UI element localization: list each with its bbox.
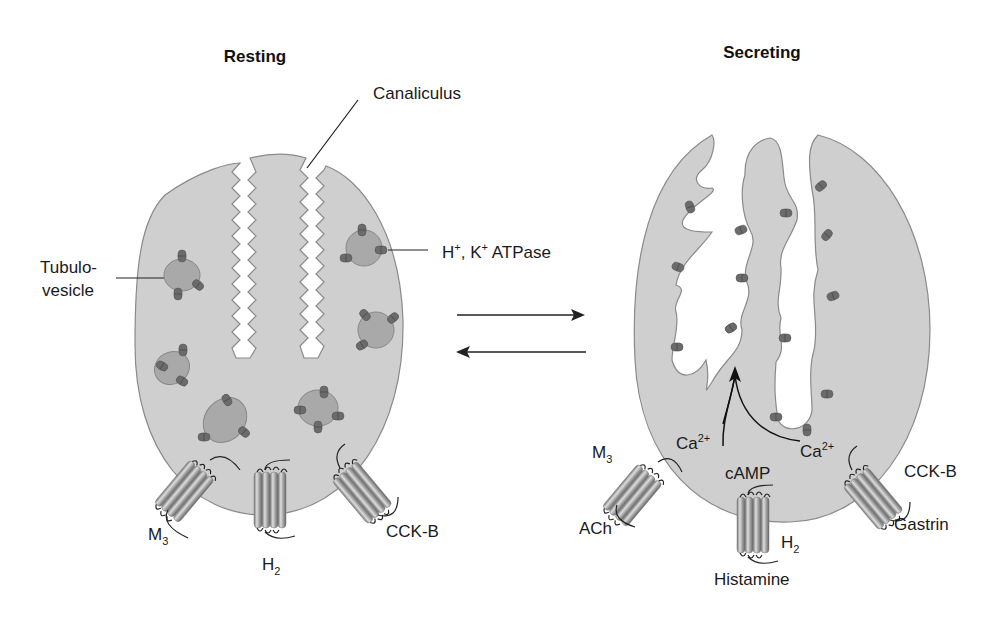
reverse-arrow bbox=[456, 346, 586, 358]
atpase-label: H+, K+ ATPase bbox=[442, 241, 551, 262]
cckb-label: CCK-B bbox=[386, 522, 439, 541]
parietal-cell-diagram: Resting Canalicu bbox=[0, 0, 1000, 618]
h2-receptor bbox=[737, 492, 770, 558]
h2-label: H2 bbox=[781, 533, 799, 555]
canaliculus-label: Canaliculus bbox=[373, 84, 461, 103]
resting-title: Resting bbox=[224, 47, 286, 66]
ach-label: ACh bbox=[579, 519, 612, 538]
histamine-label: Histamine bbox=[714, 570, 790, 589]
tubulovesicle-label-line2: vesicle bbox=[42, 281, 94, 300]
tubulovesicle-label-line1: Tubulo- bbox=[40, 258, 97, 277]
secreting-title: Secreting bbox=[723, 43, 800, 62]
h2-receptor bbox=[254, 467, 287, 533]
gastrin-label: Gastrin bbox=[894, 515, 949, 534]
m3-label: M3 bbox=[148, 525, 168, 547]
cckb-label: CCK-B bbox=[904, 462, 957, 481]
m3-label: M3 bbox=[592, 443, 612, 465]
camp-label: cAMP bbox=[725, 464, 770, 483]
forward-arrow bbox=[457, 309, 585, 321]
h2-label: H2 bbox=[262, 555, 280, 577]
secreting-cell bbox=[634, 135, 930, 522]
